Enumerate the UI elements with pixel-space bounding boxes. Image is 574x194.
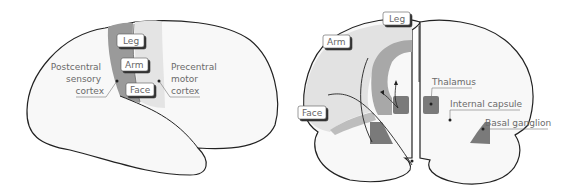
- coronal-leg-label: Leg: [389, 14, 405, 24]
- lateral-brain-view: Leg Arm Face Postcentral sensory cortex …: [27, 21, 278, 176]
- coronal-arm-label: Arm: [327, 37, 345, 47]
- thalamus-label: Thalamus: [431, 77, 476, 87]
- diagram-canvas: Leg Arm Face Postcentral sensory cortex …: [0, 0, 574, 194]
- coronal-face-label: Face: [302, 108, 323, 118]
- basal-ganglion-label: Basal ganglion: [485, 118, 551, 128]
- lateral-arm-label: Arm: [125, 60, 143, 70]
- lateral-face-label: Face: [130, 85, 151, 95]
- lateral-leg-label: Leg: [123, 36, 139, 46]
- internal-capsule-label: Internal capsule: [450, 99, 523, 109]
- coronal-brain-view: Leg Arm Face Thalamus Internal capsule B…: [298, 12, 551, 184]
